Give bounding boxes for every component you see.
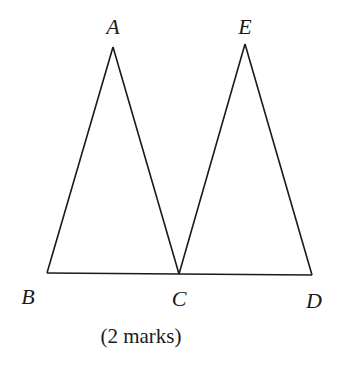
segment-ED: [245, 44, 312, 275]
marks-caption: (2 marks): [100, 324, 181, 348]
point-label-E: E: [237, 14, 252, 39]
point-label-D: D: [305, 288, 322, 313]
point-label-B: B: [21, 284, 34, 309]
segment-AC: [113, 47, 179, 274]
segment-EC: [179, 44, 245, 274]
segment-AB: [47, 47, 113, 273]
segment-CD: [179, 274, 312, 275]
geometry-diagram: A E B C D (2 marks): [0, 0, 345, 372]
segment-BC: [47, 273, 179, 274]
point-label-C: C: [172, 286, 187, 311]
point-label-A: A: [104, 14, 120, 39]
